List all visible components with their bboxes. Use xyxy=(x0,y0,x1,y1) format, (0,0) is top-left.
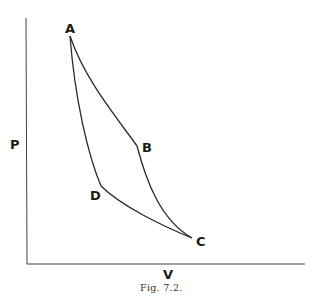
point-label-c: C xyxy=(196,234,206,249)
curve-b-c xyxy=(137,146,192,238)
figure-caption: Fig. 7.2. xyxy=(140,282,183,293)
point-label-b: B xyxy=(142,140,152,155)
x-axis-label: V xyxy=(163,267,173,282)
y-axis-label: P xyxy=(10,137,20,152)
y-axis xyxy=(26,18,27,264)
curve-a-b xyxy=(70,36,137,146)
curve-d-a xyxy=(70,36,101,186)
curve-c-d xyxy=(101,186,192,238)
pv-diagram: A B C D P V Fig. 7.2. xyxy=(0,0,317,303)
point-label-d: D xyxy=(90,188,101,203)
point-label-a: A xyxy=(65,21,75,36)
